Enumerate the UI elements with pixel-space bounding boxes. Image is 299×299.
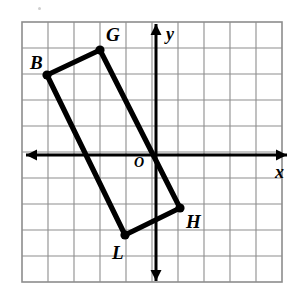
figure-canvas: B G H L x y O xyxy=(0,0,299,299)
vertex-label-h: H xyxy=(186,212,201,231)
origin-label: O xyxy=(134,156,144,170)
vertex-label-l: L xyxy=(112,243,124,262)
quadrilateral-bghl xyxy=(47,50,180,235)
y-axis-label: y xyxy=(166,25,174,43)
vertex-label-g: G xyxy=(106,25,120,44)
vertex-label-b: B xyxy=(30,53,43,72)
scan-speck xyxy=(38,7,41,10)
x-axis-label: x xyxy=(275,163,284,181)
coordinate-plane-svg xyxy=(0,0,299,299)
